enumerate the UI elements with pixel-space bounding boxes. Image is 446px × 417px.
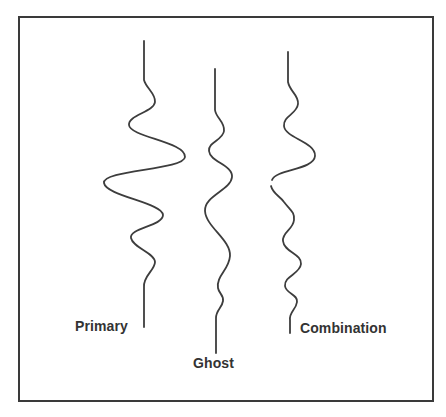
primary-label: Primary [75,318,128,334]
ghost-wavelet-trace [205,69,232,353]
combination-label: Combination [300,320,387,336]
ghost-label: Ghost [193,355,234,371]
combination-wavelet-trace-upper [272,52,315,180]
combination-wavelet-trace-lower [271,186,301,333]
primary-wavelet-trace [104,41,185,327]
